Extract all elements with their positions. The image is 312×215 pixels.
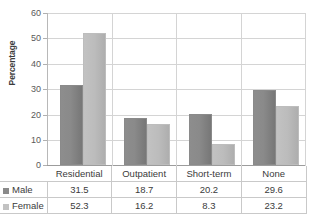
cell-male-residential: 31.5 <box>47 182 112 198</box>
bar-male-short-term[interactable] <box>189 114 212 165</box>
bar-male-none[interactable] <box>253 90 276 165</box>
table-row: Female 52.3 16.2 8.3 23.2 <box>0 198 306 214</box>
table-corner-cell <box>0 166 47 182</box>
legend-item-male[interactable]: Male <box>0 182 47 198</box>
cell-male-none: 29.6 <box>241 182 306 198</box>
bar-male-residential[interactable] <box>60 85 83 165</box>
plot-area: Percentage 60 50 40 30 20 10 0 <box>0 0 312 168</box>
bar-female-outpatient[interactable] <box>147 124 170 165</box>
cell-female-residential: 52.3 <box>47 198 112 214</box>
cell-female-short-term: 8.3 <box>177 198 242 214</box>
legend-label-female: Female <box>12 200 44 211</box>
table-header-residential: Residential <box>47 166 112 182</box>
cell-male-short-term: 20.2 <box>177 182 242 198</box>
bars-layer <box>0 0 312 168</box>
bar-female-none[interactable] <box>276 106 299 165</box>
table-row: Male 31.5 18.7 20.2 29.6 <box>0 182 306 198</box>
bar-female-short-term[interactable] <box>212 144 235 165</box>
legend-item-female[interactable]: Female <box>0 198 47 214</box>
cell-male-outpatient: 18.7 <box>112 182 177 198</box>
table-header-row: Residential Outpatient Short-term None <box>0 166 306 182</box>
data-table: Residential Outpatient Short-term None M… <box>0 166 307 214</box>
cell-female-none: 23.2 <box>241 198 306 214</box>
table-header-outpatient: Outpatient <box>112 166 177 182</box>
table-header-short-term: Short-term <box>177 166 242 182</box>
legend-swatch-male-icon <box>3 188 9 194</box>
legend-swatch-female-icon <box>3 204 9 210</box>
bar-female-residential[interactable] <box>83 33 106 165</box>
table-header-none: None <box>241 166 306 182</box>
bar-male-outpatient[interactable] <box>124 118 147 165</box>
cell-female-outpatient: 16.2 <box>112 198 177 214</box>
bar-chart-figure: Percentage 60 50 40 30 20 10 0 <box>0 0 312 215</box>
legend-label-male: Male <box>12 184 33 195</box>
